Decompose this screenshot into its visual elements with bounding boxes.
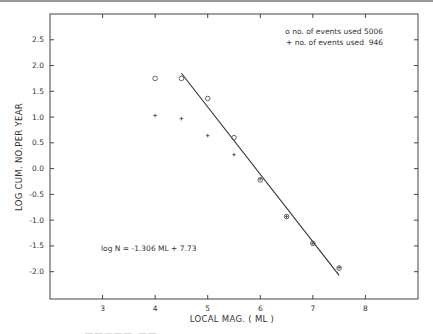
regression-line [181,73,339,275]
series-circle-markers [153,76,342,270]
plot-frame [50,14,418,299]
y-tick-label: 0.0 [32,164,44,173]
y-tick-label: -2.0 [29,267,44,276]
y-tick-label: -0.5 [29,190,44,199]
x-axis-ticks: 345678 [100,14,368,313]
x-axis-title: LOCAL MAG. ( ML ) [190,314,275,324]
circle-marker [179,76,184,81]
x-tick-label: 4 [153,304,158,313]
x-tick-label: 3 [100,304,105,313]
y-tick-label: 1.0 [32,113,44,122]
y-axis-ticks: 2.52.01.51.00.50.0-0.5-1.0-1.5-2.0 [29,35,418,276]
y-tick-label: 2.0 [32,61,44,70]
y-axis-title: LOG CUM. NO.PER YEAR [14,103,24,211]
x-tick-label: 7 [310,304,315,313]
y-tick-label: 2.5 [32,35,44,44]
equation-annotation: log N = -1.306 ML + 7.73 [101,244,197,253]
legend-entry-plus: + no. of events used 946 [286,38,383,47]
x-tick-label: 6 [258,304,263,313]
y-tick-label: -1.0 [29,216,44,225]
x-tick-label: 5 [205,304,210,313]
y-tick-label: -1.5 [29,241,44,250]
y-tick-label: 1.5 [32,87,44,96]
figure-caption-cutoff: ▀▀▀▀▀ ▀ ▀▀▀ ▀▀▀▀ ▀▀▀ ▀ ▀▀ ▀▀ ▀▀▀▀▀ ▀▀ [85,328,355,334]
legend-entry-circles: o no. of events used 5006 [285,27,383,36]
y-tick-label: 0.5 [32,138,44,147]
circle-marker [205,96,210,101]
circle-marker [153,76,158,81]
chart-svg: 2.52.01.51.00.50.0-0.5-1.0-1.5-2.0 34567… [0,0,433,334]
x-tick-label: 8 [363,304,368,313]
